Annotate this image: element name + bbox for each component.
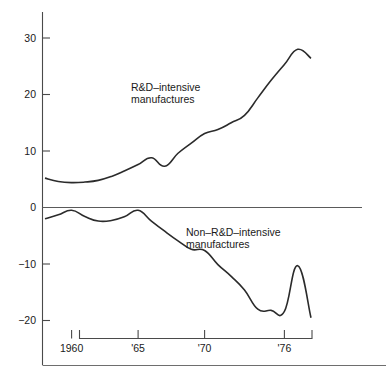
non-rd-intensive-label-line2: manufactures <box>186 238 250 250</box>
y-axis-tick-labels: 3020100−10−20 <box>18 32 36 327</box>
chart-canvas: 3020100−10−20 1960'65'70'76 R&D–intensiv… <box>0 0 388 377</box>
y-tick-label-−10: −10 <box>18 258 36 270</box>
series-line-rd-intensive <box>45 49 311 183</box>
x-axis-ticks <box>72 330 285 339</box>
rd-intensive-label-line2: manufactures <box>131 93 195 105</box>
y-tick-label-10: 10 <box>24 145 36 157</box>
x-tick-label-1960: 1960 <box>60 342 84 354</box>
rd-intensive-label-line1: R&D–intensive <box>131 81 201 93</box>
series-annotations: R&D–intensivemanufacturesNon–R&D–intensi… <box>131 81 281 250</box>
non-rd-intensive-label-line1: Non–R&D–intensive <box>186 226 281 238</box>
x-tick-label-1970: '70 <box>198 342 212 354</box>
x-tick-label-1976: '76 <box>278 342 292 354</box>
x-axis-tick-labels: 1960'65'70'76 <box>60 342 291 354</box>
x-axis-bracket <box>80 330 313 339</box>
y-tick-label-20: 20 <box>24 88 36 100</box>
y-tick-label-30: 30 <box>24 32 36 44</box>
y-tick-label-−20: −20 <box>18 314 36 326</box>
y-tick-label-0: 0 <box>30 201 36 213</box>
x-tick-label-1965: '65 <box>131 342 145 354</box>
line-chart: 3020100−10−20 1960'65'70'76 R&D–intensiv… <box>0 0 388 377</box>
